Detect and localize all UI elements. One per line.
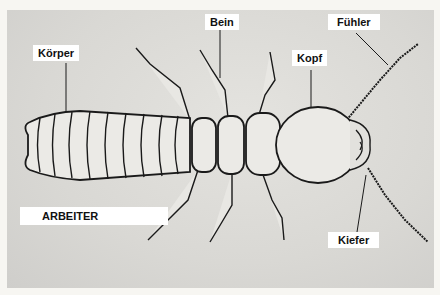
label-kopf: Kopf [292, 50, 327, 66]
legs-bottom [148, 170, 284, 242]
head [276, 107, 360, 183]
label-kiefer: Kiefer [328, 232, 379, 248]
antenna-bottom [368, 168, 428, 242]
caption-arbeiter: ARBEITER [20, 207, 168, 225]
mesothorax [218, 116, 244, 174]
antenna-top [345, 44, 418, 122]
mandibles [350, 120, 370, 170]
label-fuehler: Fühler [328, 14, 380, 30]
metathorax [246, 113, 280, 175]
prothorax [192, 118, 216, 172]
legs-top [136, 48, 275, 120]
label-koerper: Körper [33, 45, 79, 61]
abdomen [25, 111, 190, 180]
label-bein: Bein [205, 14, 239, 30]
fuehler-leader-line [356, 33, 388, 65]
kiefer-leader-line [357, 175, 366, 232]
